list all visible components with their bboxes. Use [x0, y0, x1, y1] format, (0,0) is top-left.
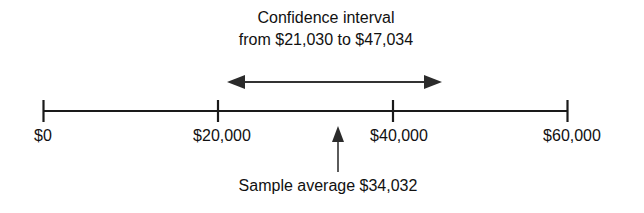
confidence-interval-arrow-head-right: [424, 75, 442, 89]
sample-average-caption-text: Sample average $34,032: [239, 178, 418, 194]
confidence-interval-figure: Confidence interval from $21,030 to $47,…: [0, 0, 644, 213]
confidence-interval-arrow: [227, 75, 442, 89]
confidence-interval-arrow-head-left: [227, 75, 245, 89]
axis-tick-label-60000: $60,000: [543, 128, 601, 144]
sample-average-arrow-head: [332, 126, 344, 142]
axis-tick-label-0: $0: [34, 128, 52, 144]
sample-average-arrow: [332, 126, 344, 172]
axis-tick-label-40000: $40,000: [370, 128, 428, 144]
number-line-axis: [43, 100, 568, 122]
axis-tick-label-20000: $20,000: [193, 128, 251, 144]
sample-average-caption: Sample average $34,032: [0, 178, 644, 194]
